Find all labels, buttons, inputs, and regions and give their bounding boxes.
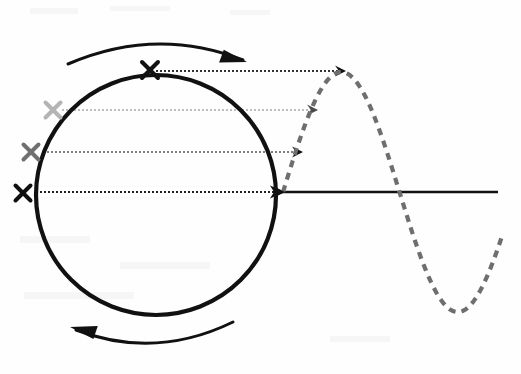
- rotation-arrow-bottom: [76, 322, 233, 343]
- projection-lines-group: [36, 66, 346, 198]
- rotation-arrow-top: [68, 44, 243, 64]
- marker-x-20deg: [24, 145, 39, 160]
- rotation-arrow-bottom-arrowhead: [70, 326, 98, 339]
- figure-diagram: [0, 0, 521, 374]
- rotating-circle: [36, 75, 276, 315]
- figure-canvas: [0, 0, 521, 374]
- marker-x-45deg: [46, 103, 61, 118]
- marker-x-0deg: [16, 186, 31, 201]
- rotation-arrow-top-arrowhead: [219, 50, 247, 63]
